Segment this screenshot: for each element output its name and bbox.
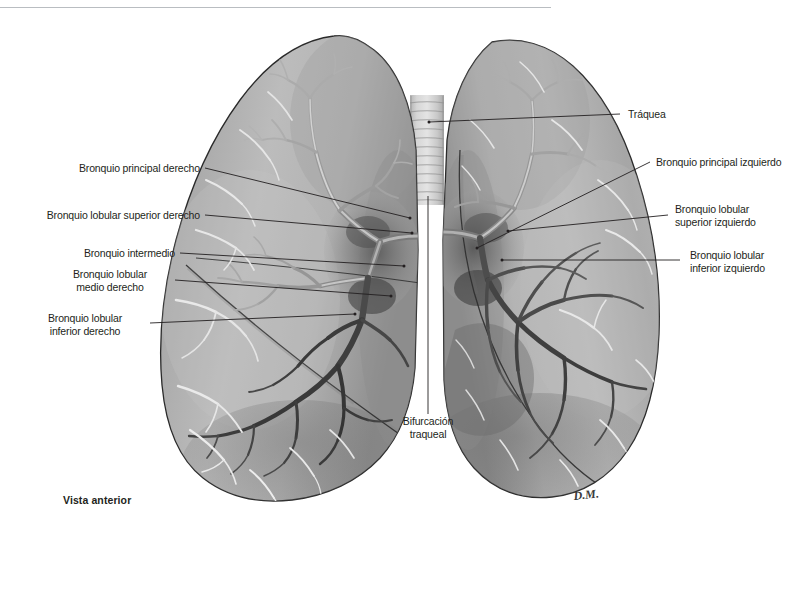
label-left-inferior-lobar-bronchus-line1: Bronquio lobular [690, 249, 798, 262]
label-tracheal-bifurcation-line2: traqueal [380, 428, 476, 441]
label-right-inferior-lobar-bronchus-line1: Bronquio lobular [25, 312, 145, 325]
label-right-inferior-lobar-bronchus: Bronquio lobular inferior derecho [25, 312, 145, 337]
view-caption-text: Vista anterior [63, 494, 203, 507]
label-left-superior-lobar-bronchus: Bronquio lobular superior izquierdo [675, 203, 798, 228]
label-tracheal-bifurcation: Bifurcación traqueal [380, 415, 476, 440]
label-right-inferior-lobar-bronchus-line2: inferior derecho [25, 325, 145, 338]
label-intermediate-bronchus: Bronquio intermedio [20, 247, 175, 260]
label-left-superior-lobar-bronchus-line1: Bronquio lobular [675, 203, 798, 216]
label-right-middle-lobar-bronchus: Bronquio lobular medio derecho [50, 268, 170, 293]
label-intermediate-bronchus-text: Bronquio intermedio [20, 247, 175, 260]
left-lung [420, 28, 680, 537]
label-tracheal-bifurcation-line1: Bifurcación [380, 415, 476, 428]
label-left-inferior-lobar-bronchus: Bronquio lobular inferior izquierdo [690, 249, 798, 274]
view-caption: Vista anterior [63, 494, 203, 507]
label-left-inferior-lobar-bronchus-line2: inferior izquierdo [690, 262, 798, 275]
label-right-main-bronchus-text: Bronquio principal derecho [20, 162, 200, 175]
label-right-superior-lobar-bronchus-text: Bronquio lobular superior derecho [10, 209, 200, 222]
right-lung [160, 30, 438, 540]
anatomical-figure: D.M. Bronquio principal derecho Bronquio… [0, 0, 798, 594]
label-right-middle-lobar-bronchus-line2: medio derecho [50, 281, 170, 294]
label-right-main-bronchus: Bronquio principal derecho [20, 162, 200, 175]
label-left-main-bronchus: Bronquio principal izquierdo [656, 156, 798, 169]
artist-signature-mark: D.M. [572, 486, 600, 503]
label-left-main-bronchus-text: Bronquio principal izquierdo [656, 156, 798, 169]
label-right-middle-lobar-bronchus-line1: Bronquio lobular [50, 268, 170, 281]
label-right-superior-lobar-bronchus: Bronquio lobular superior derecho [10, 209, 200, 222]
label-trachea: Tráquea [628, 108, 768, 121]
label-trachea-text: Tráquea [628, 108, 768, 121]
label-left-superior-lobar-bronchus-line2: superior izquierdo [675, 216, 798, 229]
